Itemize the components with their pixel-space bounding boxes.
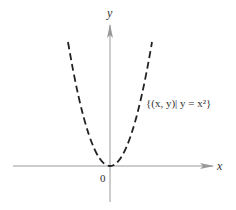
curve-label: {(x, y)| y = x²}: [146, 97, 211, 110]
origin-label: 0: [100, 172, 106, 184]
x-axis-label: x: [216, 159, 223, 173]
parabola-diagram: x y 0 {(x, y)| y = x²}: [0, 0, 236, 210]
y-axis-label: y: [106, 6, 113, 20]
